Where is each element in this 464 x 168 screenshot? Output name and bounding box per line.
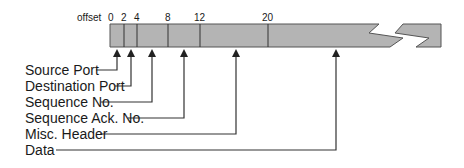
tick-4: 4 [134,12,140,23]
field-label-sequence-no: Sequence No. [25,94,114,110]
field-label-misc-header: Misc. Header [25,126,108,142]
arrow-heads [113,49,340,57]
field-label-sequence-ack-no: Sequence Ack. No. [25,110,144,126]
tick-8: 8 [165,12,171,23]
packet-bar-tail [395,24,441,47]
tick-0: 0 [108,12,114,23]
tick-12: 12 [194,12,206,23]
arrow-up-icon [113,49,121,57]
tick-2: 2 [121,12,127,23]
field-label-data: Data [25,142,55,158]
arrow-up-icon [148,49,156,57]
packet-bar [110,24,403,47]
field-label-destination-port: Destination Port [25,78,125,94]
arrow-up-icon [332,49,340,57]
arrow-up-icon [180,49,188,57]
tick-20: 20 [262,12,274,23]
field-label-source-port: Source Port [25,62,99,78]
packet-structure-diagram: offset 0 2 4 8 12 20 Source Port Destina… [0,0,464,168]
offset-label: offset [77,12,101,23]
arrow-up-icon [127,49,135,57]
arrow-up-icon [232,49,240,57]
